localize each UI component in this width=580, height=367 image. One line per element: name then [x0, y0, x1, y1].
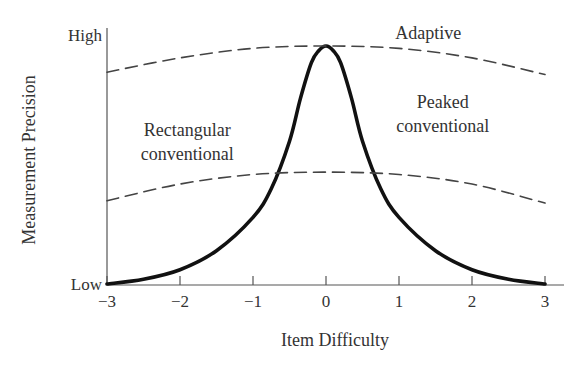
annotation-label: conventional	[141, 144, 234, 164]
x-ticks: −3−2−10123	[98, 276, 549, 311]
x-tick-label: 1	[395, 292, 404, 311]
series-peaked-conventional	[107, 46, 545, 284]
x-tick-label: 0	[322, 292, 331, 311]
annotation-label: Peaked	[417, 92, 469, 112]
x-tick-label: 2	[468, 292, 477, 311]
y-tick-high: High	[68, 26, 103, 45]
x-axis-label: Item Difficulty	[281, 330, 389, 350]
x-tick-label: −3	[98, 292, 116, 311]
x-tick-label: −1	[244, 292, 262, 311]
chart: −3−2−10123 AdaptivePeakedconventionalRec…	[0, 0, 580, 367]
series-rectangular-conventional	[107, 172, 545, 203]
annotation-label: conventional	[396, 116, 489, 136]
annotation-label: Adaptive	[395, 23, 461, 43]
series	[107, 46, 545, 284]
annotation-label: Rectangular	[144, 120, 231, 140]
annotations: AdaptivePeakedconventionalRectangularcon…	[141, 23, 489, 164]
y-tick-low: Low	[71, 275, 103, 294]
series-adaptive	[107, 46, 545, 75]
y-axis-label: Measurement Precision	[19, 75, 39, 244]
x-tick-label: 3	[541, 292, 550, 311]
x-tick-label: −2	[171, 292, 189, 311]
